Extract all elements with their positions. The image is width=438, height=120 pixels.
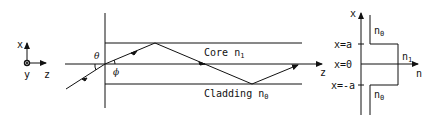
- z-axis-label: z: [320, 68, 326, 78]
- reflected-ray-up: [252, 65, 298, 84]
- incident-ray: [66, 64, 105, 89]
- upper-cladding-index: n0: [374, 26, 384, 38]
- refracted-ray: [105, 43, 155, 64]
- waveguide-diagram: x y z θ ϕ Core n1 Cladding n0 z x x=a x=…: [0, 0, 438, 120]
- profile-x-label: x: [350, 9, 356, 19]
- coordinate-axes-icon: [25, 43, 47, 66]
- profile-core-index: n1: [402, 52, 412, 64]
- coord-z-label: z: [44, 70, 50, 80]
- diagram-lines: [0, 0, 438, 120]
- phi-arc: [114, 60, 115, 64]
- theta-label: θ: [94, 52, 99, 61]
- core-label: Core n1: [204, 48, 244, 60]
- tick-x-a: x=a: [334, 40, 352, 50]
- theta-arc: [95, 64, 96, 70]
- lower-cladding-index: n0: [374, 90, 384, 102]
- cladding-label: Cladding n0: [204, 89, 268, 101]
- tick-x-0: x=0: [334, 60, 352, 70]
- profile-n-label: n: [416, 69, 422, 79]
- tick-x-minus-a: x=-a: [331, 81, 355, 91]
- phi-label: ϕ: [113, 68, 119, 77]
- coord-x-label: x: [17, 40, 23, 50]
- coord-y-label: y: [24, 70, 30, 80]
